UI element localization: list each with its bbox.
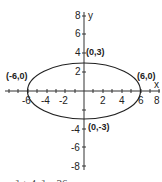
x-tick-label: -6	[22, 95, 31, 106]
x-tick-label: 2	[100, 95, 106, 106]
x-tick-label: -4	[41, 95, 50, 106]
y-tick-label: 6	[75, 28, 81, 39]
y-tick-label: 8	[75, 10, 81, 21]
point-label-top: (0,3)	[86, 47, 105, 57]
point-label-bottom: (0,-3)	[88, 122, 110, 132]
point-label-left: (-6,0)	[6, 71, 28, 81]
x-tick-label: 4	[119, 95, 125, 106]
y-tick-label: 4	[75, 47, 81, 58]
point-label-right: (6,0)	[137, 71, 156, 81]
y-tick-label: -4	[71, 124, 80, 135]
x-tick-label: -2	[59, 95, 68, 106]
equation: x² + 4y² = 36	[10, 177, 68, 182]
y-tick-label: -6	[71, 142, 80, 153]
y-axis-label: y	[88, 10, 93, 21]
y-tick-label: -8	[71, 161, 80, 172]
ellipse-graph: -6 -4 -2 2 4 6 8 8 6 4 2 -4 -6 -8 y x (0…	[0, 0, 162, 182]
y-tick-label: 2	[75, 66, 81, 77]
x-tick-label: 6	[138, 95, 144, 106]
x-tick-label: 8	[154, 95, 160, 106]
